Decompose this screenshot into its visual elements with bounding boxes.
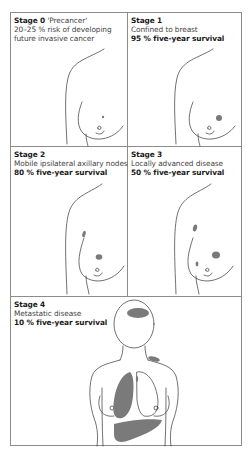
panel-stage-1: Stage 1 Confined to breast 95 % five-yea… (127, 12, 242, 146)
panel-stage-2: Stage 2 Mobile ipsilateral axillary node… (10, 146, 127, 296)
breast-profile-illustration (10, 146, 127, 296)
lung-metastasis-left (113, 372, 133, 418)
brain-metastasis (127, 308, 149, 318)
lung-metastasis-small (136, 376, 138, 382)
primary-tumor (96, 254, 103, 260)
breast-profile-illustration (10, 12, 127, 146)
panel-stage-0: Stage 0 'Precancer' 20–25 % risk of deve… (10, 12, 127, 146)
liver-metastasis (114, 419, 162, 442)
panel-stage-3: Stage 3 Locally advanced disease 50 % fi… (127, 146, 242, 296)
panel-stage-4: Stage 4 Metastatic disease 10 % five-yea… (10, 296, 242, 446)
breast-profile-illustration (127, 146, 242, 296)
torso-illustration (10, 296, 242, 446)
primary-tumor (212, 251, 220, 258)
secondary-tumor (196, 262, 199, 267)
axillary-node (82, 230, 87, 237)
precancer-dot (102, 116, 104, 118)
axillary-node (192, 224, 198, 232)
primary-tumor (216, 115, 222, 121)
breast-profile-illustration (127, 12, 242, 146)
